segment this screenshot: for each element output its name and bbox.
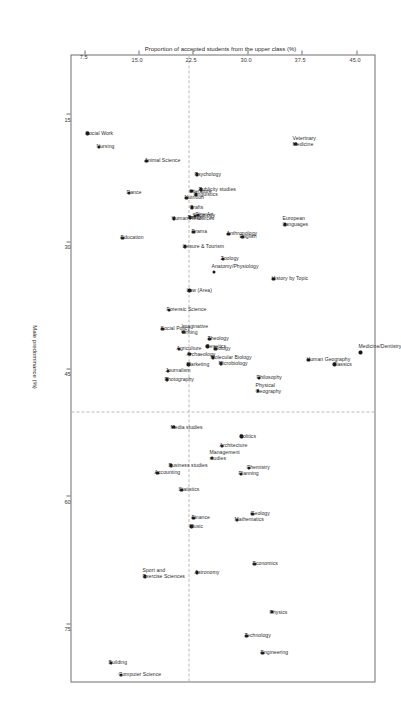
x-axis-tick-label: 30 — [64, 243, 70, 249]
data-point-label: Building — [108, 659, 127, 665]
data-point-label: Finance — [191, 514, 209, 520]
data-point-label: Genetics — [205, 343, 226, 349]
data-point-label: Business studies — [168, 462, 207, 468]
data-point-label: Photography — [164, 376, 193, 382]
data-point-label: Accounting — [154, 469, 180, 475]
data-point-label: Physical Geography — [255, 382, 281, 393]
data-point-label: Zoology — [220, 255, 238, 261]
data-point-label: Microbiology — [218, 360, 247, 366]
data-point-label: Education — [120, 234, 143, 240]
data-point-label: Mathematics — [234, 516, 263, 522]
data-point-label: History by Topic — [271, 275, 308, 281]
y-axis-tick-label: 45.0 — [349, 57, 360, 63]
data-point-label: Architecture — [219, 442, 247, 448]
data-point-label: Engineering — [260, 649, 288, 655]
data-point-label: Molecular Biology — [210, 354, 251, 360]
data-point-label: Philosophy — [256, 374, 281, 380]
x-axis-tick-label: 45 — [64, 370, 70, 376]
y-axis-tick-label: 7.5 — [80, 54, 88, 60]
data-point-label: Physics — [269, 609, 287, 615]
data-point-label: Music — [189, 523, 203, 529]
data-point-label: Nutrition — [184, 194, 203, 200]
data-point-label: Anthropology — [226, 230, 257, 236]
data-point-label: Forensic Science — [166, 306, 206, 312]
data-point-label: Anatomy/Physiology — [211, 263, 258, 269]
x-axis-tick — [66, 241, 70, 242]
data-point-label: Social Work — [85, 130, 113, 136]
data-point-label: Management studies — [209, 449, 239, 460]
reference-line-vertical — [71, 411, 374, 412]
data-point-label: Theology — [207, 335, 228, 341]
data-point-label: Leisure & Tourism — [182, 243, 224, 249]
data-point-label: Journalism — [165, 367, 190, 373]
data-point-label: Computer Science — [118, 671, 161, 677]
data-point-label: Archaeology — [186, 351, 215, 357]
y-axis-tick-label: 15.0 — [131, 57, 142, 63]
x-axis-tick — [66, 368, 70, 369]
data-point-label: Media studies — [170, 424, 202, 430]
y-axis-title: Proportion of accepted students from the… — [68, 46, 373, 52]
data-point-label: Medicine/Dentistry — [358, 343, 401, 349]
data-point-label: European Languages — [282, 215, 308, 226]
data-point-label: Animal Science — [144, 157, 180, 163]
data-point-label: Economics — [252, 560, 277, 566]
data-point-label: Politics — [239, 433, 256, 439]
data-point — [359, 350, 362, 353]
y-axis-tick-label: 22.5 — [185, 57, 196, 63]
data-point-label: Literature — [189, 188, 211, 194]
data-point-label: Psychology — [194, 171, 221, 177]
data-point-label: Agriculture — [176, 345, 201, 351]
data-point-label: Nursing — [96, 143, 114, 149]
data-point-label: Marketing — [186, 361, 209, 367]
data-point — [212, 270, 215, 273]
data-point-label: Drama — [191, 228, 207, 234]
data-point-label: Statistics — [178, 486, 199, 492]
x-axis-title: Male predominance (%) — [31, 0, 37, 713]
x-axis-tick — [66, 113, 70, 114]
x-axis-tick — [66, 495, 70, 496]
x-axis-tick — [66, 623, 70, 624]
y-axis-tick-label: 30.0 — [240, 57, 251, 63]
data-point-label: Sport and Exercise Sciences — [142, 567, 184, 578]
x-axis-tick-label: 15 — [64, 116, 70, 122]
data-point-label: Social Policy — [160, 325, 190, 331]
x-axis-tick-label: 75 — [64, 625, 70, 631]
x-axis-tick-label: 60 — [64, 498, 70, 504]
data-point-label: Veterinary Medicine — [292, 135, 315, 146]
data-point-label: Human Resources — [171, 215, 214, 221]
plot-area: Medicine/Dentistry ClassicsHuman Geograp… — [70, 54, 375, 682]
data-point-label: Dance — [126, 189, 141, 195]
data-point-label: Human Geography — [306, 356, 350, 362]
data-point-label: Law (Area) — [186, 287, 211, 293]
data-point-label: Technology — [244, 632, 270, 638]
data-point-label: Astronomy — [194, 569, 219, 575]
y-axis-tick-label: 37.5 — [294, 57, 305, 63]
data-point-label: Planning — [238, 470, 258, 476]
data-point-label: Crafts — [189, 204, 203, 210]
